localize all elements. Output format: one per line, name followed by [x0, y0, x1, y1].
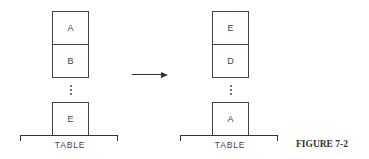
table-label: TABLE [180, 140, 280, 150]
block-second: B [52, 44, 89, 78]
figure-caption: FIGURE 7-2 [296, 139, 348, 149]
table-surface [20, 135, 118, 136]
arrow-shaft [132, 74, 162, 75]
table-label: TABLE [20, 140, 120, 150]
block-top: E [212, 11, 249, 45]
block-bottom: E [52, 102, 89, 136]
ellipsis-vertical-icon [70, 85, 72, 97]
block-second: D [212, 44, 249, 78]
block-label: A [227, 114, 233, 124]
block-label: B [67, 56, 73, 66]
block-label: D [227, 56, 234, 66]
block-label: E [227, 23, 233, 33]
arrow-right-icon [161, 72, 168, 78]
table-surface [180, 135, 278, 136]
block-label: A [67, 23, 73, 33]
block-label: E [67, 114, 73, 124]
block-bottom: A [212, 102, 249, 136]
block-top: A [52, 11, 89, 45]
ellipsis-vertical-icon [230, 85, 232, 97]
